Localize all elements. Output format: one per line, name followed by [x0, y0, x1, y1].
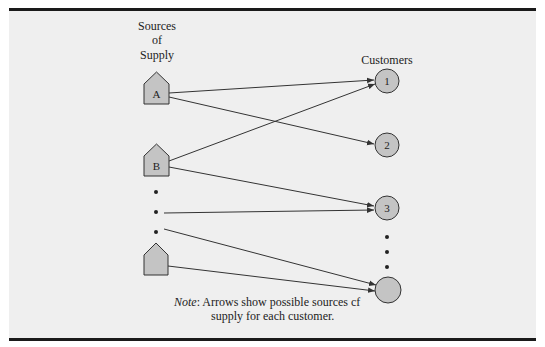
customers-heading: Customers [361, 53, 413, 67]
customer-label-3: 3 [384, 202, 390, 214]
ellipsis-dot [154, 230, 158, 234]
ellipsis-dot [385, 235, 389, 239]
ellipsis-dot [154, 190, 158, 194]
sources-heading-line1: Sources [138, 19, 176, 33]
ellipsis-dot [385, 265, 389, 269]
customer-node-2: 2 [375, 133, 399, 157]
source-label-A: A [153, 88, 161, 100]
edge-B-1 [169, 84, 375, 161]
source-ellipsis [154, 190, 158, 234]
customer-label-1: 1 [384, 75, 390, 87]
edge-B-3 [169, 167, 374, 206]
customer-node-1: 1 [375, 69, 399, 93]
customer-ellipsis [385, 235, 389, 269]
ellipsis-dot [385, 250, 389, 254]
source-node-B: B [144, 144, 169, 176]
figure-note: Note: Arrows show possible sources cf su… [174, 295, 404, 323]
ellipsis-dot [154, 210, 158, 214]
source-node-A: A [144, 72, 169, 104]
sources-heading-line2: of [152, 33, 162, 47]
sources-heading-line3: Supply [140, 48, 174, 62]
customer-node-3: 3 [375, 196, 399, 220]
customer-label-2: 2 [384, 139, 390, 151]
note-line1: : Arrows show possible sources cf [197, 295, 361, 309]
source-label-B: B [153, 160, 160, 172]
source-node-last [144, 243, 168, 275]
edge-ellipsis-last [164, 229, 376, 285]
house-icon [144, 243, 168, 275]
note-line2: supply for each customer. [174, 309, 404, 323]
edges [164, 80, 376, 291]
note-label: Note [174, 295, 197, 309]
edge-last-last [168, 266, 375, 291]
edge-ellipsis-3 [164, 210, 374, 213]
edge-A-2 [169, 97, 374, 144]
edge-A-1 [169, 80, 374, 93]
